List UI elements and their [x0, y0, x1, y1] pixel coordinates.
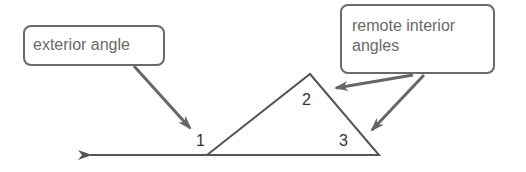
pointer-arrow-angle3: [372, 75, 424, 130]
remote-interior-label-line1: remote interior: [352, 16, 493, 36]
angle-1-label: 1: [196, 132, 205, 150]
pointer-arrow-angle2: [336, 75, 413, 88]
exterior-angle-callout: exterior angle: [23, 25, 165, 66]
remote-interior-label-line2: angles: [352, 36, 493, 56]
angle-3-label: 3: [339, 132, 348, 150]
angle-2-label: 2: [302, 91, 311, 109]
remote-interior-angles-callout: remote interior angles: [340, 4, 495, 74]
pointer-arrow-exterior: [134, 66, 190, 128]
exterior-angle-label: exterior angle: [33, 36, 130, 53]
